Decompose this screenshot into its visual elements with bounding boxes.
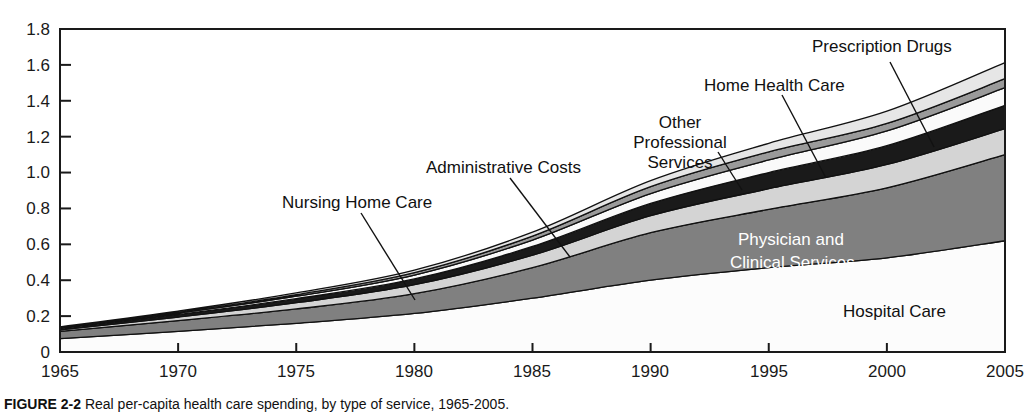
stacked-area-chart: 1.8 1.6 1.4 1.2 1.0 0.8 0.6 0.4 0.2 0 19… — [0, 0, 1032, 412]
x-tick-label-2005: 2005 — [986, 362, 1024, 381]
y-tick-label-1-8: 1.8 — [26, 20, 50, 39]
x-tick-label-1990: 1990 — [631, 362, 669, 381]
y-tick-label-1-6: 1.6 — [26, 56, 50, 75]
annotation-prescription-drugs: Prescription Drugs — [812, 37, 952, 56]
x-tick-label-1965: 1965 — [41, 362, 79, 381]
y-tick-label-0-8: 0.8 — [26, 199, 50, 218]
x-tick-label-1980: 1980 — [395, 362, 433, 381]
y-tick-label-1-4: 1.4 — [26, 92, 50, 111]
annotation-physician-line2: Clinical Services — [730, 253, 855, 272]
y-tick-label-0: 0 — [41, 343, 50, 362]
y-tick-label-1-0: 1.0 — [26, 163, 50, 182]
annotation-physician-line1: Physician and — [738, 230, 844, 249]
figure-caption: FIGURE 2-2 Real per-capita health care s… — [4, 396, 509, 412]
annotation-nursing-home-care: Nursing Home Care — [282, 193, 432, 212]
y-tick-label-0-4: 0.4 — [26, 271, 50, 290]
annotation-hospital-care: Hospital Care — [843, 302, 946, 321]
y-tick-label-0-6: 0.6 — [26, 235, 50, 254]
x-tick-label-1970: 1970 — [159, 362, 197, 381]
annotation-home-health-care: Home Health Care — [704, 76, 845, 95]
y-tick-label-1-2: 1.2 — [26, 128, 50, 147]
x-tick-label-1975: 1975 — [277, 362, 315, 381]
x-tick-label-1995: 1995 — [750, 362, 788, 381]
annotation-other-professional-line1: Other — [659, 113, 702, 132]
x-tick-label-2000: 2000 — [868, 362, 906, 381]
figure-container: 1.8 1.6 1.4 1.2 1.0 0.8 0.6 0.4 0.2 0 19… — [0, 0, 1032, 412]
annotation-other-professional-line3: Services — [647, 153, 712, 172]
x-tick-label-1985: 1985 — [513, 362, 551, 381]
figure-number: FIGURE 2-2 — [4, 396, 81, 412]
annotation-other-professional-line2: Professional — [633, 133, 727, 152]
annotation-administrative-costs: Administrative Costs — [426, 158, 581, 177]
figure-caption-text: Real per-capita health care spending, by… — [85, 396, 509, 412]
y-tick-label-0-2: 0.2 — [26, 307, 50, 326]
